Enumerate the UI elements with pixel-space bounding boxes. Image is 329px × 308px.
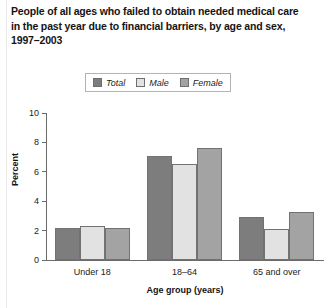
y-axis-tick-mark	[42, 230, 46, 231]
y-axis-tick-label: 10	[29, 108, 39, 118]
y-axis-tick-mark	[42, 113, 46, 114]
bar-total-2	[239, 217, 264, 260]
chart-page: People of all ages who failed to obtain …	[0, 0, 329, 308]
chart-title-line-3: 1997–2003	[11, 33, 321, 48]
legend-label: Total	[106, 78, 125, 88]
legend-swatch-icon	[136, 78, 145, 87]
legend-swatch-icon	[180, 78, 189, 87]
y-axis-tick-label: 6	[34, 167, 39, 177]
y-axis-tick: 2	[34, 226, 46, 236]
bar-female-0	[105, 228, 130, 260]
bar-female-1	[197, 148, 222, 260]
y-axis-tick: 8	[34, 137, 46, 147]
y-axis-tick-mark	[42, 260, 46, 261]
legend-label: Female	[193, 78, 223, 88]
chart-title-line-2: in the past year due to financial barrie…	[11, 19, 321, 34]
chart-legend: TotalMaleFemale	[85, 73, 231, 92]
bar-total-1	[147, 156, 172, 260]
y-axis-tick: 4	[34, 196, 46, 206]
bar-male-1	[172, 164, 197, 260]
x-axis-line	[46, 260, 324, 261]
legend-swatch-icon	[93, 78, 102, 87]
y-axis-tick-mark	[42, 142, 46, 143]
y-axis-tick-label: 2	[34, 226, 39, 236]
y-axis-tick-mark	[42, 171, 46, 172]
y-axis-tick: 10	[29, 108, 46, 118]
chart-title: People of all ages who failed to obtain …	[11, 4, 321, 48]
legend-entry-male: Male	[136, 78, 169, 88]
y-axis-tick-label: 0	[34, 255, 39, 265]
scan-artifact-line	[6, 0, 7, 308]
chart-title-line-1: People of all ages who failed to obtain …	[11, 4, 321, 19]
x-axis-group-label: 65 and over	[253, 267, 301, 277]
legend-label: Male	[149, 78, 169, 88]
bar-male-0	[80, 226, 105, 260]
x-axis-title: Age group (years)	[146, 285, 223, 295]
bar-female-2	[289, 212, 314, 261]
legend-entry-female: Female	[180, 78, 223, 88]
y-axis-tick: 6	[34, 167, 46, 177]
x-axis-group-label: Under 18	[74, 267, 111, 277]
plot-area: 0246810	[46, 113, 323, 260]
y-axis-title: Percent	[10, 153, 20, 186]
y-axis-tick-mark	[42, 201, 46, 202]
y-axis-tick-label: 4	[34, 196, 39, 206]
x-axis-group-label: 18–64	[172, 267, 197, 277]
y-axis-tick: 0	[34, 255, 46, 265]
bar-male-2	[264, 229, 289, 260]
y-axis-tick-label: 8	[34, 137, 39, 147]
legend-entry-total: Total	[93, 78, 125, 88]
bar-total-0	[55, 228, 80, 260]
